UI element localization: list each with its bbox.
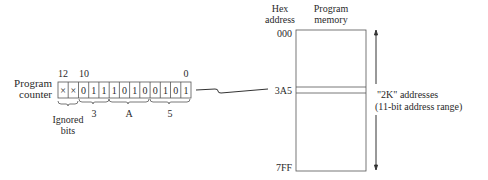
col-mem-line2: memory (314, 14, 347, 25)
bit-5: 1 (132, 85, 137, 96)
ignored-label-line1: Ignored (52, 114, 83, 125)
pc-label-line2: counter (19, 88, 52, 100)
bit-7: 1 (112, 85, 117, 96)
program-memory-block (296, 30, 366, 171)
bit-label-10: 10 (79, 68, 89, 79)
col-hex-line2: address (265, 14, 295, 25)
range-label-line2: (11-bit address range) (375, 101, 462, 113)
bit-11: × (70, 85, 76, 96)
pc-to-address-connector (196, 89, 268, 93)
range-label-line1: "2K" addresses (377, 89, 438, 100)
hex-digit-A: A (125, 108, 133, 119)
bit-9: 1 (91, 85, 96, 96)
bit-label-12: 12 (58, 68, 68, 79)
program-counter-addressing-diagram: Program counter 12 10 0 × × 0 1 1 1 0 1 … (0, 0, 488, 180)
bit-10: 0 (81, 85, 86, 96)
bit-4: 0 (143, 85, 148, 96)
bit-12: × (60, 85, 66, 96)
addr-000: 000 (277, 28, 292, 39)
bit-label-0: 0 (184, 68, 189, 79)
col-mem-line1: Program (314, 3, 349, 14)
bit-0: 1 (183, 85, 188, 96)
bit-3: 0 (153, 85, 158, 96)
ignored-label-line2: bits (61, 125, 76, 136)
addr-3A5: 3A5 (275, 85, 292, 96)
col-hex-line1: Hex (272, 3, 289, 14)
hex-digit-3: 3 (92, 108, 97, 119)
pc-bits: × × 0 1 1 1 0 1 0 0 1 0 1 (60, 85, 188, 96)
bit-6: 0 (122, 85, 127, 96)
bit-1: 0 (173, 85, 178, 96)
hex-digit-5: 5 (168, 108, 173, 119)
range-arrow (375, 30, 378, 170)
hex-group-braces (58, 99, 190, 106)
bit-2: 1 (163, 85, 168, 96)
addr-7FF: 7FF (276, 162, 293, 173)
bit-8: 1 (102, 85, 107, 96)
